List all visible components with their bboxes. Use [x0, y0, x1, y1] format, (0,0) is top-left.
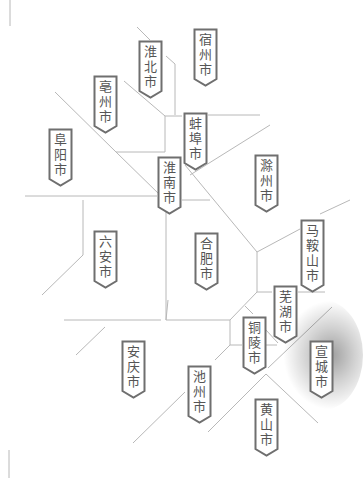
city-label-xuancheng[interactable]: 宣城市 [309, 340, 334, 399]
city-name: 马鞍山市 [300, 223, 325, 283]
city-name: 六安市 [93, 234, 118, 279]
city-name: 宣城市 [309, 344, 334, 389]
city-label-bozhou[interactable]: 亳州市 [93, 75, 118, 134]
city-label-luan[interactable]: 六安市 [93, 230, 118, 289]
city-label-tongling[interactable]: 铜陵市 [242, 316, 267, 375]
city-name: 阜阳市 [48, 132, 73, 177]
city-label-hefei[interactable]: 合肥市 [194, 232, 219, 291]
city-name: 滁州市 [254, 158, 279, 203]
city-name: 黄山市 [254, 402, 279, 447]
city-name: 池州市 [187, 369, 212, 414]
city-label-fuyang[interactable]: 阜阳市 [48, 128, 73, 187]
city-label-maanshan[interactable]: 马鞍山市 [300, 219, 325, 293]
city-name: 宿州市 [193, 32, 218, 77]
city-label-chizhou[interactable]: 池州市 [187, 365, 212, 424]
city-name: 淮南市 [157, 160, 182, 205]
city-name: 芜湖市 [273, 289, 298, 334]
city-name: 蚌埠市 [183, 116, 208, 161]
city-name: 安庆市 [121, 344, 146, 389]
city-label-anqing[interactable]: 安庆市 [121, 340, 146, 399]
city-name: 淮北市 [138, 44, 163, 89]
city-name: 合肥市 [194, 236, 219, 281]
city-label-huangshan[interactable]: 黄山市 [254, 398, 279, 457]
city-name: 铜陵市 [242, 320, 267, 365]
city-label-chuzhou[interactable]: 滁州市 [254, 154, 279, 213]
city-label-suzhou[interactable]: 宿州市 [193, 28, 218, 87]
city-name: 亳州市 [93, 79, 118, 124]
city-label-huaibei[interactable]: 淮北市 [138, 40, 163, 99]
city-label-wuhu[interactable]: 芜湖市 [273, 285, 298, 344]
city-label-bengbu[interactable]: 蚌埠市 [183, 112, 208, 171]
city-label-huainan[interactable]: 淮南市 [157, 156, 182, 215]
